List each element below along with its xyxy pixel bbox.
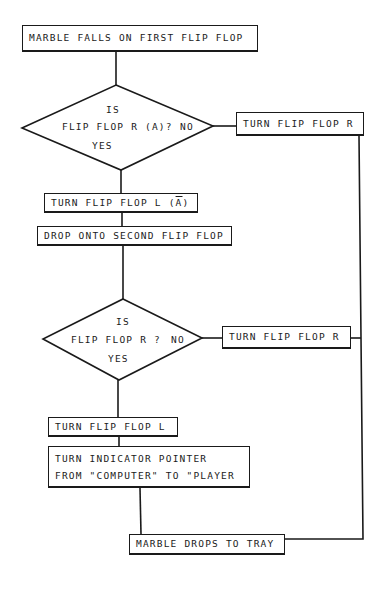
turn-flip-flop-l-abar-box: TURN FLIP FLOP L (A) <box>44 193 198 213</box>
indicator-line2: FROM "COMPUTER" TO "PLAYER <box>55 467 235 484</box>
decision2-yes-label: YES <box>108 354 129 364</box>
a-bar-symbol: A <box>176 198 183 208</box>
decision1-yes-label: YES <box>92 141 113 151</box>
turn-flip-flop-l-label: TURN FLIP FLOP L <box>55 422 166 432</box>
connector-indicator-to-end <box>140 488 141 534</box>
turn-flip-flop-r-box-2: TURN FLIP FLOP R <box>222 326 351 349</box>
flowchart-canvas: MARBLE FALLS ON FIRST FLIP FLOP IS FLIP … <box>0 0 391 592</box>
decision1-line1: IS <box>106 105 120 115</box>
decision2-line2: FLIP FLOP R ? <box>71 335 161 345</box>
start-label: MARBLE FALLS ON FIRST FLIP FLOP <box>29 33 244 43</box>
turn-flip-flop-r-box-1: TURN FLIP FLOP R <box>236 112 364 136</box>
turn-flip-flop-l-abar-prefix: TURN FLIP FLOP L ( <box>51 198 176 208</box>
turn-flip-flop-r-label-1: TURN FLIP FLOP R <box>243 119 354 129</box>
indicator-line1: TURN INDICATOR POINTER <box>55 450 207 467</box>
start-box: MARBLE FALLS ON FIRST FLIP FLOP <box>22 25 258 52</box>
indicator-box: TURN INDICATOR POINTER FROM "COMPUTER" T… <box>48 446 250 488</box>
end-box: MARBLE DROPS TO TRAY <box>129 534 285 555</box>
drop-second-box: DROP ONTO SECOND FLIP FLOP <box>37 226 232 246</box>
end-label: MARBLE DROPS TO TRAY <box>136 539 274 549</box>
flowchart-connectors <box>0 0 391 592</box>
turn-flip-flop-l-box: TURN FLIP FLOP L <box>48 417 178 437</box>
turn-flip-flop-r-label-2: TURN FLIP FLOP R <box>229 332 340 342</box>
drop-second-label: DROP ONTO SECOND FLIP FLOP <box>44 231 224 241</box>
decision2-line1: IS <box>116 317 130 327</box>
turn-flip-flop-l-abar-suffix: ) <box>182 198 189 208</box>
decision2-no-label: NO <box>171 335 185 345</box>
decision1-line2: FLIP FLOP R (A)? <box>62 122 173 132</box>
decision1-no-label: NO <box>180 122 194 132</box>
